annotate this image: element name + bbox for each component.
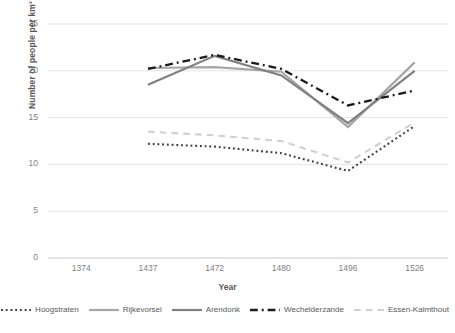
legend-label: Wechelderzande — [284, 306, 344, 314]
x-tick-label: 1472 — [185, 264, 245, 273]
legend-item-essen-kalmthout[interactable]: Essen-Kalmthout — [354, 305, 449, 315]
legend-label: Hoogstraten — [35, 306, 79, 314]
chart-legend: HoogstratenRijkevorselArendonkWechelderz… — [0, 305, 455, 315]
chart-canvas — [0, 0, 455, 300]
series-lines — [148, 55, 415, 171]
legend-swatch-dash-dot — [250, 305, 280, 315]
y-tick-label: 5 — [4, 206, 38, 215]
x-tick-label: 1496 — [318, 264, 378, 273]
legend-item-hoogstraten[interactable]: Hoogstraten — [1, 305, 79, 315]
y-axis-title: Number of people per km² — [27, 0, 37, 145]
y-tick-label: 10 — [4, 159, 38, 168]
legend-swatch-dashed — [354, 305, 384, 315]
legend-swatch-solid — [89, 305, 119, 315]
series-line-wechelderzande — [148, 55, 415, 106]
x-tick-label: 1526 — [385, 264, 445, 273]
legend-swatch-solid — [172, 305, 202, 315]
series-line-arendonk — [148, 56, 415, 123]
y-tick-label: 0 — [4, 253, 38, 262]
x-tick-label: 1437 — [118, 264, 178, 273]
legend-swatch-dotted — [1, 305, 31, 315]
x-axis-title: Year — [0, 282, 455, 292]
x-tick-label: 1480 — [251, 264, 311, 273]
legend-item-arendonk[interactable]: Arendonk — [172, 305, 240, 315]
plot-area: 0510152025 137414371472148014961526 Numb… — [0, 0, 455, 300]
x-tick-label: 1374 — [51, 264, 111, 273]
legend-label: Rijkevorsel — [123, 306, 162, 314]
legend-item-wechelderzande[interactable]: Wechelderzande — [250, 305, 344, 315]
legend-label: Arendonk — [206, 306, 240, 314]
legend-label: Essen-Kalmthout — [388, 306, 449, 314]
gridlines — [48, 24, 448, 258]
legend-item-rijkevorsel[interactable]: Rijkevorsel — [89, 305, 162, 315]
line-chart: 0510152025 137414371472148014961526 Numb… — [0, 0, 455, 333]
series-line-essen-kalmthout — [148, 122, 415, 162]
